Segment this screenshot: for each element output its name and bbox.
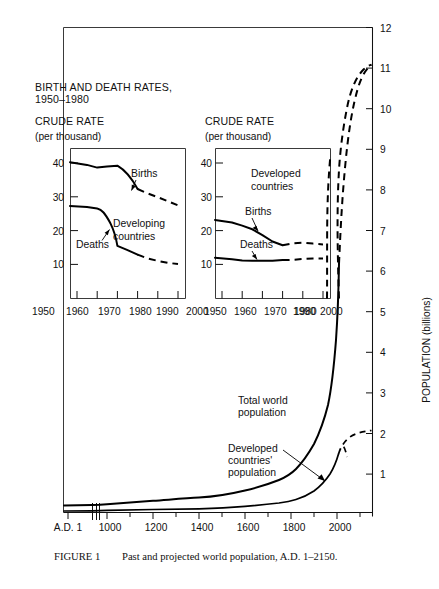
inset-left-region-line1: Developing [113, 218, 165, 229]
y-label-11: 11 [380, 63, 391, 74]
y-label-12: 12 [380, 23, 392, 34]
inset-right-deaths-label: Deaths [240, 239, 273, 250]
inset-developed-x-labels-extra: 1990 2000 [293, 306, 343, 317]
inset-right-region-label: Developed countries [251, 168, 301, 192]
x-label-1600: 1600 [237, 522, 260, 533]
inset-right-x-label-1970: 1970 [264, 306, 287, 317]
curve-total-world-population-projected-visible [338, 65, 372, 299]
inset-right-births-label: Births [245, 206, 272, 217]
curve-developing-births-projected [138, 189, 178, 205]
inset-left-births-label: Births [131, 168, 158, 179]
population-figure: 12 11 10 9 8 7 6 5 4 3 2 1 POPULATION (b… [0, 0, 439, 589]
curve-developing-births [70, 162, 138, 189]
inset-right-y-label-10: 10 [201, 259, 213, 270]
x-label-1200: 1200 [145, 522, 168, 533]
curve-total-world-population-projected [339, 65, 372, 264]
inset-right-region-line2: countries [251, 181, 293, 192]
inset-right-header-line1: CRUDE RATE [205, 115, 274, 127]
inset-right-x-label-1990-visible: 1990 [293, 306, 316, 317]
annotation-developed-countries-population: Developed countries' population [228, 443, 278, 478]
main-y-ticks [366, 28, 373, 513]
curve-projection-inset-segment [327, 155, 331, 299]
main-x-tick-labels: A.D. 1 1000 1200 1400 1600 1800 2000 [54, 522, 352, 533]
developed-pop-label-line1: Developed [228, 443, 278, 454]
inset-left-deaths-label: Deaths [76, 239, 109, 250]
inset-left-x-label-1990: 1990 [156, 306, 179, 317]
main-header-line2: 1950–1980 [35, 93, 89, 105]
curve-developed-deaths [215, 258, 283, 261]
curve-developing-deaths-projected [138, 255, 178, 265]
main-y-tick-labels: 12 11 10 9 8 7 6 5 4 3 2 1 [380, 23, 392, 481]
inset-right-y-label-40: 40 [201, 158, 213, 169]
y-label-3: 3 [380, 388, 386, 399]
total-world-label-line1: Total world [238, 395, 288, 406]
curve-developed-countries-population-projected [339, 431, 372, 458]
inset-right-x-label-1950: 1950 [204, 306, 227, 317]
main-y-axis-title: POPULATION (billions) [421, 297, 432, 403]
inset-developing-x-labels: 1950 1960 1970 1980 1990 2000 [32, 306, 209, 317]
inset-left-y-label-30: 30 [53, 192, 65, 203]
main-x-ticks [68, 513, 360, 520]
inset-right-deaths-leader [252, 251, 257, 260]
total-world-label-line2: population [238, 407, 286, 418]
inset-left-x-label-1970: 1970 [98, 306, 121, 317]
inset-right-y-label-30: 30 [201, 192, 213, 203]
x-label-2000: 2000 [329, 522, 352, 533]
inset-right-x-label-1960: 1960 [234, 306, 257, 317]
inset-left-region-line2: countries [113, 231, 155, 242]
x-label-1400: 1400 [191, 522, 214, 533]
main-header-line1: BIRTH AND DEATH RATES, [35, 81, 172, 93]
developed-pop-label-line2: countries' [228, 455, 272, 466]
inset-left-y-label-20: 20 [53, 226, 65, 237]
inset-right-y-label-20: 20 [201, 226, 213, 237]
x-label-1800: 1800 [283, 522, 306, 533]
curve-developed-births-projected [283, 243, 323, 246]
inset-developed-x-ticks [222, 291, 323, 299]
figure-root: 12 11 10 9 8 7 6 5 4 3 2 1 POPULATION (b… [0, 0, 439, 589]
y-label-7: 7 [380, 226, 386, 237]
developed-pop-label-line3: population [228, 467, 276, 478]
inset-left-region-label: Developing countries [113, 218, 165, 242]
y-label-5: 5 [380, 307, 386, 318]
figure-caption: FIGURE 1 Past and projected world popula… [54, 551, 337, 562]
inset-left-x-label-1960: 1960 [66, 306, 89, 317]
y-label-1: 1 [380, 469, 386, 480]
y-label-10: 10 [380, 104, 392, 115]
x-label-ad1: A.D. 1 [54, 522, 83, 533]
y-label-6: 6 [380, 266, 386, 277]
curve-developed-deaths-projected [283, 258, 323, 260]
inset-right-x-label-2000-visible: 2000 [320, 306, 343, 317]
curve-total-world-population [64, 264, 339, 506]
inset-developed-y-labels: 40 30 20 10 [201, 158, 213, 270]
inset-developing-y-labels: 40 30 20 10 [53, 158, 65, 270]
caption-label: FIGURE 1 [54, 551, 100, 562]
projection-dashed-through-inset [338, 65, 372, 299]
inset-left-y-label-40: 40 [53, 158, 65, 169]
y-label-4: 4 [380, 347, 386, 358]
inset-left-y-label-10: 10 [53, 259, 65, 270]
inset-left-header-line2: (per thousand) [35, 131, 101, 142]
inset-right-region-line1: Developed [251, 168, 301, 179]
caption-text: Past and projected world population, A.D… [122, 551, 337, 562]
inset-developed-y-ticks [216, 163, 224, 264]
inset-left-x-label-1950: 1950 [32, 306, 55, 317]
inset-left-x-label-1980: 1980 [129, 306, 152, 317]
x-label-1000: 1000 [99, 522, 122, 533]
inset-developing-x-ticks [77, 291, 178, 299]
curve-developed-countries-population [64, 454, 339, 511]
inset-developed-header: CRUDE RATE (per thousand) [205, 115, 274, 142]
y-label-9: 9 [380, 144, 386, 155]
inset-right-header-line2: (per thousand) [205, 131, 271, 142]
developed-pop-leader-arrow [283, 450, 325, 481]
inset-developing-header: BIRTH AND DEATH RATES, 1950–1980 CRUDE R… [35, 81, 172, 142]
annotation-total-world-population: Total world population [238, 395, 288, 418]
inset-left-header-line1: CRUDE RATE [35, 115, 104, 127]
y-label-2: 2 [380, 429, 386, 440]
y-label-8: 8 [380, 185, 386, 196]
